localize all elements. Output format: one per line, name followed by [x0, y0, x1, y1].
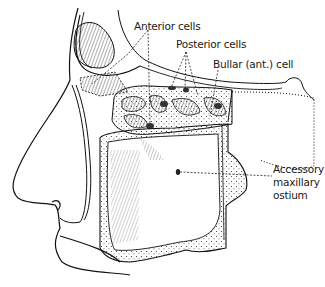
- nasal-bone: [60, 85, 91, 223]
- posterior-dotted-outline: [232, 92, 314, 169]
- label-accessory-2: maxillary: [273, 176, 320, 188]
- label-anterior-cells: Anterior cells: [134, 20, 200, 32]
- anatomical-drawing: [0, 0, 325, 287]
- label-accessory-1: Accessory: [273, 163, 324, 175]
- accessory-ostium-marker: [176, 169, 180, 175]
- label-accessory-3: ostium: [273, 189, 308, 201]
- label-bullar-cell: Bullar (ant.) cell: [213, 58, 293, 70]
- label-posterior-cells: Posterior cells: [176, 38, 246, 50]
- frontal-sinus: [74, 12, 140, 96]
